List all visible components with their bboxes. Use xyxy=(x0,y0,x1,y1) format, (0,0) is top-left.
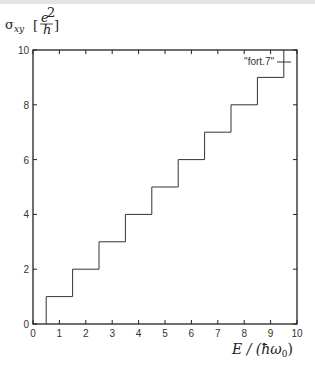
y-tick-label: 4 xyxy=(23,209,29,220)
y-tick-label: 6 xyxy=(23,155,29,166)
x-tick-label: 0 xyxy=(30,328,36,339)
y-tick-label: 0 xyxy=(23,319,29,330)
legend-label: "fort.7" xyxy=(244,56,274,67)
y-tick-label: 10 xyxy=(18,45,30,56)
y-label-bracket-open: [ xyxy=(33,18,38,33)
y-tick-label: 8 xyxy=(23,100,29,111)
y-axis-label: σxy xyxy=(5,17,25,34)
x-tick-label: 2 xyxy=(83,328,89,339)
x-tick-label: 3 xyxy=(109,328,115,339)
x-tick-label: 10 xyxy=(291,328,303,339)
x-tick-label: 4 xyxy=(136,328,142,339)
x-axis-label: E / (ħω0) xyxy=(231,341,293,359)
data-series-step xyxy=(46,50,284,324)
x-tick-label: 7 xyxy=(215,328,221,339)
y-label-bracket-close: ] xyxy=(54,18,59,33)
x-tick-label: 9 xyxy=(268,328,274,339)
x-tick-label: 5 xyxy=(162,328,168,339)
chart: 0123456789100246810"fort.7"σxy[e2h]E / (… xyxy=(0,0,315,365)
x-tick-label: 6 xyxy=(189,328,195,339)
x-tick-label: 1 xyxy=(57,328,63,339)
y-tick-label: 2 xyxy=(23,264,29,275)
x-tick-label: 8 xyxy=(241,328,247,339)
y-label-denominator: h xyxy=(43,22,51,37)
